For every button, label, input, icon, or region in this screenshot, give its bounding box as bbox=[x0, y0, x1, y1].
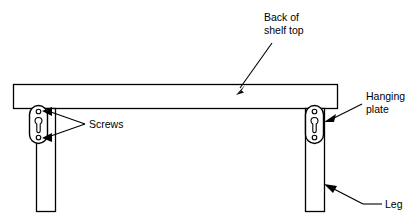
back-of-shelf-top-label-line1: Back of bbox=[264, 11, 299, 23]
hanging-plate-label-line1: Hanging bbox=[366, 90, 405, 102]
back-of-shelf-top-label-line2: shelf top bbox=[264, 24, 304, 36]
shelf-assembly-diagram: Back of shelf top Screws Hanging plate bbox=[0, 0, 417, 224]
shelf-top-part bbox=[14, 85, 338, 109]
back-of-shelf-top-leader-line bbox=[240, 43, 272, 88]
screw-hole-top-right bbox=[312, 109, 317, 114]
callout-leg: Leg bbox=[324, 184, 403, 210]
hanging-plate-label-line2: plate bbox=[366, 103, 389, 115]
screw-hole-bottom-right bbox=[312, 135, 317, 140]
diagram-canvas: Back of shelf top Screws Hanging plate bbox=[0, 0, 417, 224]
callout-back-of-shelf-top: Back of shelf top bbox=[236, 11, 304, 95]
hanging-plate-right-part bbox=[306, 106, 324, 144]
leg-label: Leg bbox=[385, 198, 403, 210]
screws-label: Screws bbox=[89, 118, 123, 130]
screw-hole-top-left bbox=[36, 109, 41, 114]
leg-arrowhead bbox=[324, 184, 337, 193]
screw-hole-bottom-left bbox=[36, 135, 41, 140]
hanging-plate-arrowhead bbox=[324, 114, 336, 122]
leg-leader-diagonal bbox=[332, 188, 363, 204]
